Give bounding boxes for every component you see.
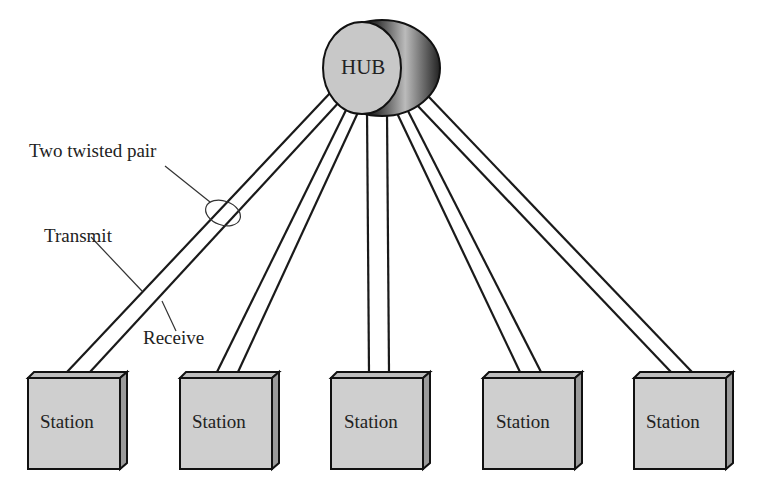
station-label-5: Station [646, 411, 700, 433]
hub-label: HUB [341, 55, 385, 80]
cable-3 [367, 110, 389, 372]
diagram-canvas: HUB Two twisted pair Transmit Receive St… [0, 0, 758, 499]
transmit-label: Transmit [44, 225, 112, 247]
cable-2 [217, 104, 360, 372]
cable-4 [396, 109, 541, 372]
receive-label: Receive [143, 327, 204, 349]
station-label-2: Station [192, 411, 246, 433]
station-label-4: Station [496, 411, 550, 433]
station-label-1: Station [40, 411, 94, 433]
label-pointers [91, 166, 244, 331]
twisted-pair-label: Two twisted pair [29, 140, 156, 162]
station-label-3: Station [344, 411, 398, 433]
cable-5 [416, 96, 692, 372]
